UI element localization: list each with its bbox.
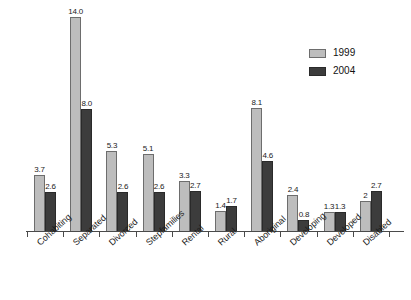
bar-1999: 1.4: [215, 8, 226, 232]
bar-rect: [143, 154, 154, 232]
x-axis-tick: [317, 232, 318, 237]
bar-group: 3.32.7: [179, 8, 201, 232]
bar-group: 22.7: [360, 8, 382, 232]
bar-value-label: 2.6: [45, 182, 56, 191]
x-axis-tick: [353, 232, 354, 237]
bar-value-label: 1.3: [324, 202, 335, 211]
bar-1999: 5.3: [106, 8, 117, 232]
bar-rect: [81, 109, 92, 232]
legend-swatch-1999: [309, 49, 326, 58]
bar-1999: 2: [360, 8, 371, 232]
bar-2004: 2.6: [117, 8, 128, 232]
bar-rect: [70, 17, 81, 232]
bar-value-label: 2.6: [154, 182, 165, 191]
bar-chart: 3.72.614.08.05.32.65.12.63.32.71.41.78.1…: [0, 0, 411, 300]
x-axis-tick: [99, 232, 100, 237]
bar-value-label: 2.7: [190, 181, 201, 190]
x-axis-tick: [63, 232, 64, 237]
legend-swatch-2004: [309, 67, 326, 76]
bar-group: 5.32.6: [106, 8, 128, 232]
bar-value-label: 2.6: [118, 182, 129, 191]
bar-value-label: 8.1: [251, 98, 262, 107]
x-axis-tick: [280, 232, 281, 237]
bar-group: 1.41.7: [215, 8, 237, 232]
bar-value-label: 3.7: [34, 165, 45, 174]
bar-value-label: 4.6: [262, 151, 273, 160]
bar-1999: 8.1: [251, 8, 262, 232]
bar-1999: 2.4: [287, 8, 298, 232]
x-axis-tick: [244, 232, 245, 237]
bar-1999: 3.3: [179, 8, 190, 232]
bar-value-label: 8.0: [81, 99, 92, 108]
bar-1999: 5.1: [143, 8, 154, 232]
x-axis-tick: [172, 232, 173, 237]
bar-value-label: 1.3: [335, 202, 346, 211]
bar-rect: [34, 175, 45, 232]
bar-rect: [251, 108, 262, 232]
bar-group: 5.12.6: [143, 8, 165, 232]
bar-rect: [179, 181, 190, 232]
x-axis-tick: [27, 232, 28, 237]
x-axis-tick: [208, 232, 209, 237]
bar-rect: [215, 211, 226, 232]
bar-2004: 0.8: [298, 8, 309, 232]
x-axis-tick: [136, 232, 137, 237]
chart-legend: 1999 2004: [309, 46, 355, 82]
bar-value-label: 1.4: [215, 201, 226, 210]
bar-value-label: 3.3: [179, 171, 190, 180]
bar-2004: 1.3: [335, 8, 346, 232]
bar-1999: 3.7: [34, 8, 45, 232]
bar-1999: 1.3: [324, 8, 335, 232]
bar-value-label: 2.7: [371, 181, 382, 190]
bar-2004: 2.7: [371, 8, 382, 232]
legend-label-1999: 1999: [333, 48, 355, 58]
bar-group: 14.08.0: [70, 8, 92, 232]
bar-1999: 14.0: [70, 8, 81, 232]
bar-2004: 4.6: [262, 8, 273, 232]
bar-2004: 2.6: [45, 8, 56, 232]
plot-area: 3.72.614.08.05.32.65.12.63.32.71.41.78.1…: [28, 8, 400, 232]
bar-value-label: 5.1: [143, 144, 154, 153]
legend-item-1999: 1999: [309, 46, 355, 60]
x-axis-tick: [389, 232, 390, 237]
bar-value-label: 2: [363, 191, 367, 200]
legend-item-2004: 2004: [309, 64, 355, 78]
bar-2004: 8.0: [81, 8, 92, 232]
bar-2004: 2.6: [154, 8, 165, 232]
bar-2004: 1.7: [226, 8, 237, 232]
bar-group: 3.72.6: [34, 8, 56, 232]
bar-group: 8.14.6: [251, 8, 273, 232]
bar-rect: [287, 195, 298, 232]
bar-group: 1.31.3: [324, 8, 346, 232]
bar-value-label: 2.4: [288, 185, 299, 194]
bar-value-label: 5.3: [107, 141, 118, 150]
legend-label-2004: 2004: [333, 66, 355, 76]
bar-2004: 2.7: [190, 8, 201, 232]
bar-value-label: 1.7: [226, 196, 237, 205]
bar-value-label: 0.8: [299, 210, 310, 219]
bar-group: 2.40.8: [287, 8, 309, 232]
